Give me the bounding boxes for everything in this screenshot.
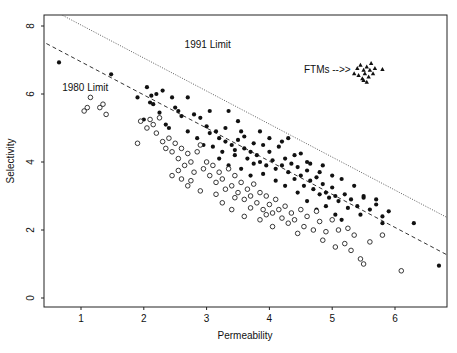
data-points [57,60,441,273]
open-point [198,143,203,148]
filled-point [223,126,227,130]
open-point [248,206,253,211]
open-point [361,262,366,267]
filled-point [336,199,340,203]
filled-point [270,158,274,162]
filled-point [314,175,318,179]
filled-point [164,123,168,127]
filled-point [233,153,237,157]
open-point [192,170,197,175]
open-point [179,177,184,182]
filled-point [437,264,441,268]
filled-point [321,182,325,186]
y-axis-label: Selectivity [5,138,16,183]
filled-point [179,114,183,118]
filled-point [223,140,227,144]
x-tick-label: 2 [141,313,147,324]
ftm-triangle-point [373,66,377,70]
open-point [198,189,203,194]
filled-point [299,174,303,178]
filled-point [412,221,416,225]
filled-point [283,157,287,161]
filled-point [154,92,158,96]
open-point [182,163,187,168]
open-point [229,207,234,212]
open-point [201,167,206,172]
open-point [167,136,172,141]
filled-point [252,162,256,166]
x-tick-label: 1 [78,313,84,324]
open-point [204,160,209,165]
filled-point [321,163,325,167]
filled-point [264,163,268,167]
filled-point [192,112,196,116]
open-point [179,146,184,151]
filled-point [245,157,249,161]
open-point [248,194,253,199]
filled-point [242,146,246,150]
open-point [368,240,373,245]
filled-point [286,136,290,140]
open-point [324,229,329,234]
open-point [233,173,238,178]
open-point [154,131,159,136]
filled-point [157,111,161,115]
filled-point [305,168,309,172]
filled-point [292,153,296,157]
filled-point [324,191,328,195]
filled-point [358,213,362,217]
open-point [261,207,266,212]
open-point [280,216,285,221]
open-point [223,187,228,192]
filled-point [330,174,334,178]
open-point [207,173,212,178]
filled-point [292,177,296,181]
scatter-chart: 123456 02468 Permeability Selectivity 19… [0,0,457,353]
y-tick-label: 0 [25,295,36,301]
open-point [320,238,325,243]
ftm-triangle-point [380,67,384,71]
filled-point [261,143,265,147]
filled-point [239,129,243,133]
filled-point [173,106,177,110]
filled-point [368,208,372,212]
open-point [101,102,106,107]
ftm-triangle-point [369,61,373,65]
x-tick-label: 6 [392,313,398,324]
filled-point [208,109,212,113]
filled-point [280,140,284,144]
open-point [104,112,109,117]
open-point [283,204,288,209]
filled-point [349,197,353,201]
filled-point [242,134,246,138]
filled-point [333,194,337,198]
open-point [258,190,263,195]
filled-point [302,184,306,188]
plot-border [44,15,447,307]
filled-point [252,141,256,145]
filled-point [226,109,230,113]
open-point [267,202,272,207]
open-point [342,241,347,246]
open-point [349,248,354,253]
open-point [255,201,260,206]
filled-point [109,72,113,76]
filled-point [230,143,234,147]
open-point [176,168,181,173]
filled-point [236,119,240,123]
open-point [299,207,304,212]
filled-point [198,116,202,120]
open-point [229,184,234,189]
y-tick-label: 2 [25,227,36,233]
filled-point [311,187,315,191]
open-point [189,160,194,165]
open-point [226,167,231,172]
filled-point [267,136,271,140]
open-point [270,211,275,216]
filled-point [239,167,243,171]
open-point [242,197,247,202]
open-point [220,201,225,206]
filled-point [374,197,378,201]
y-axis: 02468 [25,23,44,301]
filled-point [296,191,300,195]
